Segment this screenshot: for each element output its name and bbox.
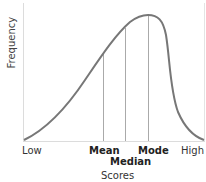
x-tick-low: Low bbox=[22, 146, 42, 156]
median-label: Median bbox=[110, 157, 151, 167]
y-axis-label: Frequency bbox=[6, 19, 17, 69]
mean-label: Mean bbox=[89, 146, 120, 156]
x-axis-label: Scores bbox=[101, 171, 134, 181]
x-tick-high: High bbox=[181, 146, 204, 156]
distribution-curve bbox=[24, 15, 204, 140]
mode-label: Mode bbox=[138, 146, 169, 156]
